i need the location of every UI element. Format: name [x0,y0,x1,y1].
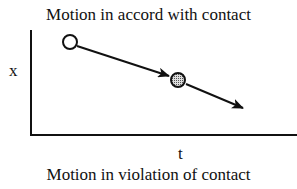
diagram-caption: Motion in violation of contact [0,166,297,184]
shaded-circle-icon [171,73,185,87]
arrow-start-to-contact [77,46,169,76]
x-axis-label: t [178,145,183,163]
arrow-contact-onward [186,84,243,108]
open-circle-icon [63,35,77,49]
motion-plot [0,0,297,189]
